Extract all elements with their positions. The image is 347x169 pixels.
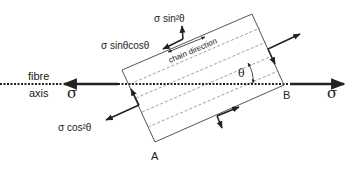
fibre-stress-diagram: chain direction θ fibre axis σ σ σ sin²θ… (0, 0, 347, 169)
chain-line-4 (148, 71, 278, 127)
sin2-arrow (182, 26, 183, 39)
sigma-left-label: σ (67, 84, 77, 102)
point-a-label: A (151, 150, 159, 162)
cos2-arrow (106, 105, 139, 120)
bottom-shear-arrow (217, 107, 239, 116)
theta-label: θ (238, 67, 245, 80)
cos2-label: σ cos²θ (58, 122, 92, 133)
point-b-label: B (283, 89, 290, 101)
fibre-label: fibre (28, 70, 49, 82)
sincos-label: σ sinθcosθ (101, 40, 150, 51)
sigma-right-label: σ (327, 84, 337, 102)
sin2-label: σ sin²θ (154, 13, 185, 24)
bottom-normal-arrow (217, 116, 222, 128)
right-normal-arrow (268, 34, 300, 49)
chain-direction-label: chain direction (167, 36, 218, 64)
right-shear-arrow (268, 49, 275, 64)
axis-label: axis (29, 87, 49, 99)
element-rectangle (122, 14, 284, 142)
